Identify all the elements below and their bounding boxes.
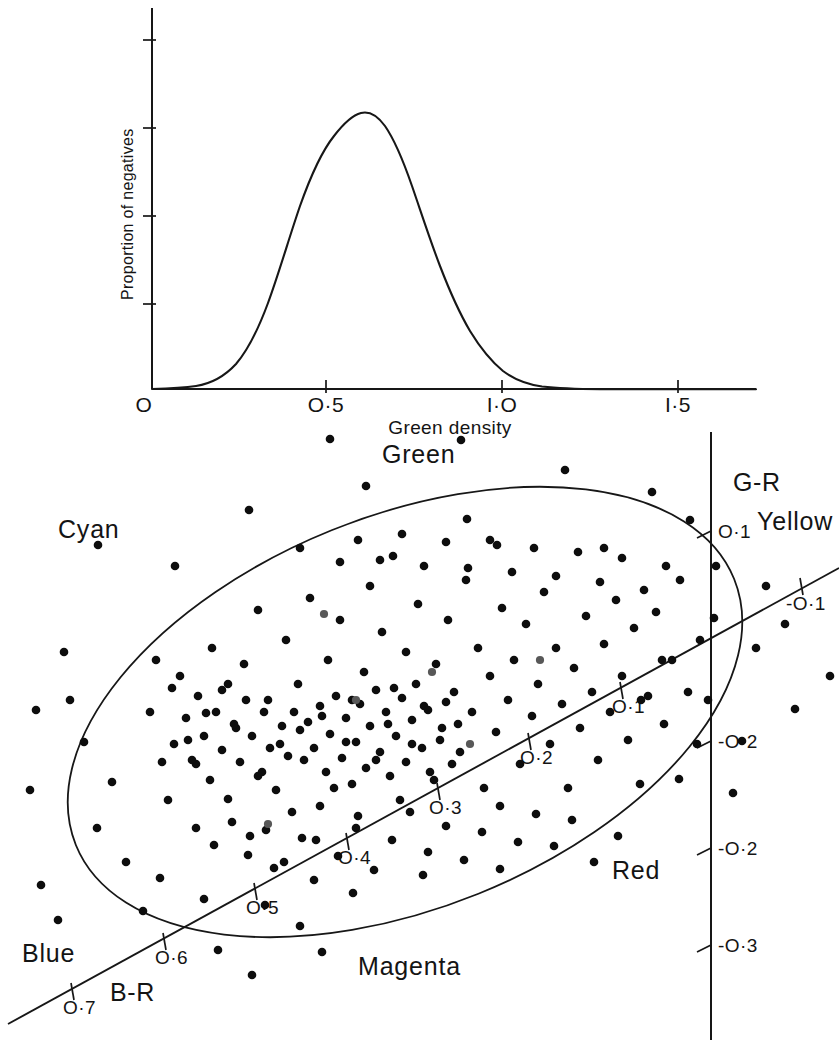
histogram-xtick-0: O bbox=[136, 393, 153, 416]
sector-label-green: Green bbox=[382, 440, 455, 468]
histogram-x-ticks bbox=[326, 380, 678, 393]
scatter-panel: O·1 -O·2 -O·2 -O·3 O·1 O·2 O·3 O·4 O·5 O… bbox=[2, 397, 839, 1040]
br-tick-label-3: O·4 bbox=[338, 847, 371, 868]
gr-axis-label: G-R bbox=[733, 468, 781, 496]
gr-tick-label-4: -O·3 bbox=[718, 935, 758, 956]
histogram-xtick-3: I·5 bbox=[665, 393, 691, 416]
sector-label-blue: Blue bbox=[22, 939, 75, 967]
histogram-y-axis-label: Proportion of negatives bbox=[119, 129, 136, 300]
br-tick-label-5: O·6 bbox=[155, 947, 188, 968]
sector-label-yellow: Yellow bbox=[757, 507, 833, 535]
br-tick-label-6: O·7 bbox=[63, 997, 96, 1018]
confidence-ellipse bbox=[2, 397, 807, 1026]
sector-label-cyan: Cyan bbox=[58, 515, 120, 543]
sector-label-red: Red bbox=[612, 856, 660, 884]
histogram-y-ticks bbox=[143, 40, 156, 304]
sector-label-magenta: Magenta bbox=[358, 952, 461, 980]
br-tick-label-neg: -O·1 bbox=[786, 593, 826, 614]
histogram-xtick-2: I·O bbox=[487, 393, 518, 416]
histogram-panel: Proportion of negatives O O·5 I·O I·5 Gr… bbox=[119, 8, 756, 438]
green-density-curve bbox=[152, 113, 756, 390]
histogram-x-axis-label: Green density bbox=[388, 417, 512, 438]
gr-tick-label-0: O·1 bbox=[718, 521, 751, 542]
figure-caption bbox=[0, 1034, 839, 1060]
figure-container: Proportion of negatives O O·5 I·O I·5 Gr… bbox=[0, 0, 839, 1060]
scatter-points bbox=[26, 435, 835, 980]
br-tick-label-1: O·2 bbox=[520, 747, 553, 768]
histogram-xtick-1: O·5 bbox=[308, 393, 345, 416]
br-tick-label-2: O·3 bbox=[429, 797, 462, 818]
br-axis-label: B-R bbox=[110, 978, 155, 1006]
gr-tick-label-3: -O·2 bbox=[718, 838, 758, 859]
